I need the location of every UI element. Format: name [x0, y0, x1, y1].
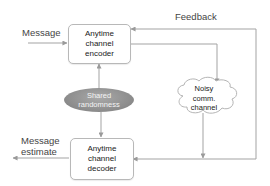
encoder-line1: Anytime	[85, 29, 114, 39]
noisy-channel-node: Noisy comm. channel	[186, 84, 222, 113]
channel-line3: channel	[186, 103, 222, 113]
decoder-node: Anytime channel decoder	[70, 138, 134, 180]
encoder-line3: encoder	[85, 49, 114, 59]
encoder-to-channel-arrow	[130, 44, 217, 83]
shared-randomness-line2: randomness	[78, 100, 119, 109]
shared-randomness-node: Shared randomness	[64, 88, 134, 112]
encoder-line2: channel	[85, 39, 114, 49]
diagram-canvas: Message Feedback Message estimate Anytim…	[0, 0, 270, 186]
message-label: Message	[22, 27, 61, 38]
encoder-node: Anytime channel encoder	[68, 24, 131, 64]
feedback-label: Feedback	[175, 11, 217, 22]
channel-line1: Noisy	[186, 84, 222, 94]
decoder-line3: decoder	[88, 164, 117, 174]
decoder-line2: channel	[88, 154, 117, 164]
message-estimate-label-line1: Message	[21, 135, 60, 146]
channel-line2: comm.	[186, 94, 222, 104]
message-estimate-label-line2: estimate	[21, 146, 57, 157]
shared-randomness-line1: Shared	[78, 91, 119, 100]
decoder-line1: Anytime	[88, 144, 117, 154]
